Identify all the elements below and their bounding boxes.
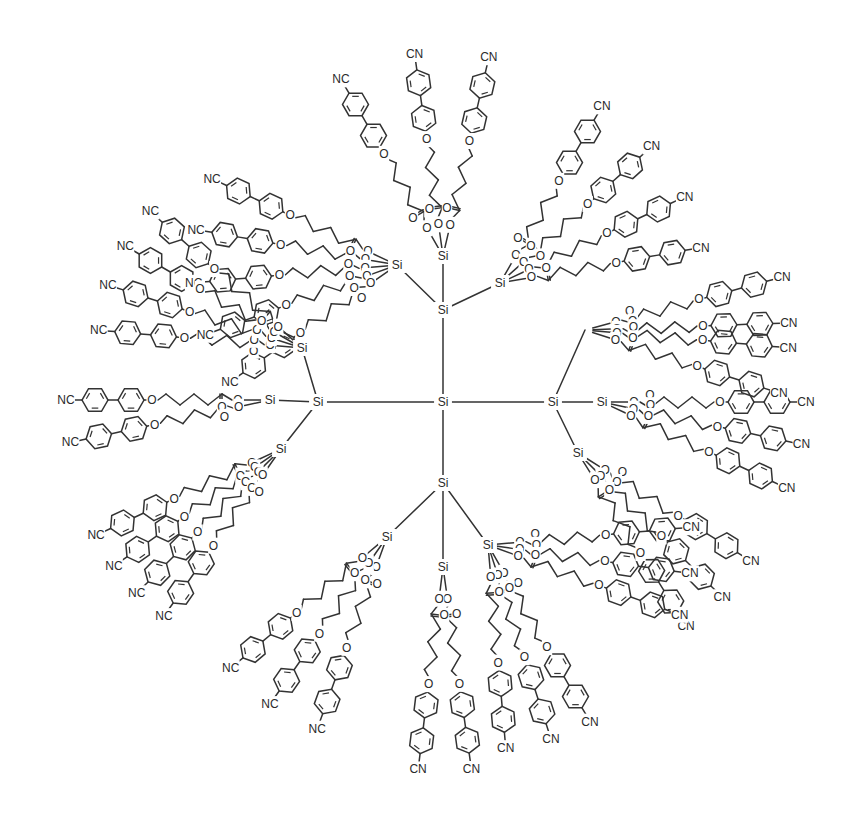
node-silicon: Si <box>276 442 287 456</box>
ring-double-bond <box>124 514 129 518</box>
carbonyl-oxygen: O <box>255 485 264 499</box>
cyano-group: NC <box>99 278 117 292</box>
methylene-bond <box>305 216 313 232</box>
ring-double-bond <box>652 200 658 203</box>
ether-oxygen: O <box>193 525 202 539</box>
cyano-group: CN <box>676 190 693 204</box>
ring-double-bond <box>754 388 759 392</box>
cyano-group: NC <box>261 697 279 711</box>
ring-double-bond <box>415 732 421 735</box>
ring-double-bond <box>178 584 185 585</box>
methylene-bond <box>408 187 411 205</box>
methylene-bond <box>458 167 466 183</box>
c-o-ether-bond <box>189 504 192 514</box>
node-silicon: Si <box>597 395 608 409</box>
carbonyl-oxygen: O <box>439 608 448 622</box>
ring-double-bond <box>246 187 247 194</box>
c-o-ether-bond <box>688 340 696 345</box>
ring-double-bond <box>763 481 768 485</box>
ring-double-bond <box>711 297 716 302</box>
methylene-bond <box>489 621 501 634</box>
ring-double-bond <box>728 344 732 349</box>
ring-double-bond <box>278 681 281 687</box>
methylene-bond <box>514 629 520 646</box>
ring-double-bond <box>319 704 323 709</box>
ether-oxygen: O <box>315 627 324 641</box>
ring-double-bond <box>764 347 768 352</box>
ring-double-bond <box>124 341 131 342</box>
ring-double-bond <box>434 703 435 710</box>
c-o-ether-bond <box>160 416 167 424</box>
methylene-bond <box>394 181 411 188</box>
ring-double-bond <box>659 561 665 562</box>
methylene-bond <box>338 596 339 614</box>
methylene-bond <box>166 394 180 405</box>
c-o-ether-bond <box>689 326 697 332</box>
ring-double-bond <box>714 285 720 287</box>
cyano-group: CN <box>683 520 700 534</box>
ester-oxygen: O <box>234 400 243 414</box>
ether-oxygen: O <box>210 262 219 276</box>
ring-double-bond <box>138 541 144 544</box>
ring-double-bond <box>523 669 527 674</box>
ring-double-bond <box>777 441 781 446</box>
methylene-bond <box>671 302 687 309</box>
c-o-ether-bond <box>179 488 184 497</box>
ring-double-bond <box>266 319 272 321</box>
c-o-ether-bond <box>694 449 704 451</box>
ring-double-bond <box>610 591 611 597</box>
ring-double-bond <box>269 304 274 308</box>
ring-double-bond <box>563 658 566 664</box>
ring-double-bond <box>103 429 107 434</box>
cyano-group: CN <box>593 99 610 113</box>
ring-double-bond <box>728 537 734 540</box>
methylene-bond <box>331 227 339 243</box>
ring-double-bond <box>709 371 710 377</box>
c-o-ether-bond <box>702 425 711 429</box>
ring-double-bond <box>751 375 757 377</box>
ring-double-bond <box>538 672 540 678</box>
cyano-group: NC <box>197 328 215 342</box>
methylene-bond <box>223 496 241 498</box>
ring-double-bond <box>252 233 256 238</box>
ring-double-bond <box>299 651 302 657</box>
carbonyl-oxygen: O <box>408 211 417 225</box>
cyano-group: NC <box>105 559 123 573</box>
methylene-bond <box>307 246 323 254</box>
ether-oxygen: O <box>601 528 610 542</box>
ring-double-bond <box>175 284 181 287</box>
ester-oxygen: O <box>446 218 455 232</box>
ring-double-bond <box>186 551 191 556</box>
si-o-bond <box>245 402 263 406</box>
c-o-ether-bond <box>663 512 673 513</box>
ring-double-bond <box>593 125 596 131</box>
ring-double-bond <box>410 81 411 87</box>
methylene-bond <box>426 152 435 167</box>
carbonyl-oxygen: O <box>452 607 461 621</box>
methylene-bond <box>326 304 331 321</box>
ring-double-bond <box>206 253 207 259</box>
node-silicon: Si <box>438 560 449 574</box>
c-o-ether-bond <box>706 402 714 408</box>
methylene-bond <box>506 602 512 619</box>
methylene-bond <box>491 634 501 649</box>
node-silicon: Si <box>438 249 449 263</box>
ring-double-bond <box>123 529 129 532</box>
methylene-bond <box>562 553 577 562</box>
cyano-group: NC <box>57 393 75 407</box>
methylene-bond <box>557 571 574 577</box>
methylene-bond <box>194 394 208 405</box>
cyano-group: CN <box>773 270 790 284</box>
ring-double-bond <box>256 370 261 374</box>
biphenyl-bond <box>650 255 660 257</box>
ring-double-bond <box>579 125 582 131</box>
c-o-ether-bond <box>158 394 166 400</box>
ring-double-bond <box>419 74 425 76</box>
ether-oxygen: O <box>612 256 621 270</box>
biphenyl-bond <box>751 434 761 436</box>
si-o-bond <box>593 323 610 328</box>
ether-oxygen: O <box>147 393 156 407</box>
ring-double-bond <box>97 444 103 445</box>
ring-double-bond <box>347 106 350 112</box>
ring-double-bond <box>365 137 368 143</box>
